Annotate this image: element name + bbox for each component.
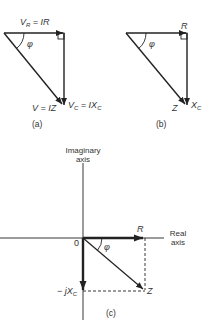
- z-label: Z: [171, 103, 178, 113]
- right-angle-mark: [58, 33, 64, 39]
- phi-label: φ: [27, 39, 33, 49]
- v-phasor: [4, 33, 62, 104]
- r-label: R: [181, 21, 188, 31]
- caption-a: (a): [32, 119, 43, 129]
- caption-c: (c): [106, 308, 116, 318]
- xc-label: XC: [190, 100, 202, 111]
- panel-a-voltage-triangle: VR = IR φ V = IZ VC = IXC (a): [4, 17, 102, 129]
- imaginary-axis-label-line1: Imaginary: [65, 146, 100, 155]
- real-axis-label-line2: axis: [171, 238, 185, 247]
- phi-arc: [17, 33, 24, 48]
- origin-label: 0: [74, 238, 79, 248]
- phi-label: φ: [104, 242, 110, 252]
- phi-arc: [139, 33, 146, 48]
- z-vector: [83, 238, 143, 289]
- z-label: Z: [146, 286, 153, 296]
- phasor-diagram: VR = IR φ V = IZ VC = IXC (a) R φ Z XC (…: [0, 0, 206, 330]
- phi-label: φ: [149, 39, 155, 49]
- imaginary-axis-label-line2: axis: [76, 155, 90, 164]
- vc-label: VC = IXC: [68, 100, 102, 111]
- z-side: [126, 33, 185, 104]
- caption-b: (b): [156, 119, 167, 129]
- phi-arc: [98, 238, 103, 250]
- real-axis-label-line1: Real: [170, 229, 187, 238]
- neg-jxc-label: − jXC: [57, 286, 78, 297]
- panel-b-impedance-triangle: R φ Z XC (b): [126, 21, 202, 129]
- right-angle-mark: [181, 33, 187, 39]
- r-label: R: [137, 224, 144, 234]
- v-label: V = IZ: [32, 103, 57, 113]
- panel-c-complex-plane: Imaginary axis Real axis 0 R φ Z − jXC (…: [0, 146, 186, 320]
- vr-label: VR = IR: [20, 17, 50, 28]
